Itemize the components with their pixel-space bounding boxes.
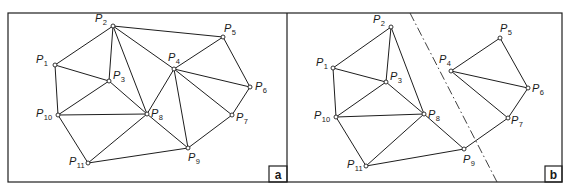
panel-a-tag-label: a (275, 168, 282, 182)
panel-b-tag-label: b (550, 168, 557, 182)
edge-p5-p4 (451, 38, 500, 71)
figure-canvas: P1P2P3P4P5P6P7P8P9P10P11 a P1P2P3P4P5P6P… (0, 0, 576, 193)
edge-p1-p3 (333, 68, 386, 82)
node-p1-marker (331, 66, 335, 70)
panel-b-edges (333, 27, 528, 166)
node-p2-label: P2 (95, 12, 107, 27)
node-p2-label: P2 (373, 13, 385, 28)
edge-p4-p5 (174, 37, 223, 69)
node-p3-marker (107, 79, 111, 83)
panel-a-nodes (53, 24, 252, 165)
node-p4-marker (449, 69, 453, 73)
edge-p4-p9 (174, 69, 188, 148)
node-p10-label: P10 (314, 109, 330, 124)
node-p5-label: P5 (500, 22, 512, 37)
node-p9-label: P9 (188, 151, 200, 166)
panel-a-labels: P1P2P3P4P5P6P7P8P9P10P11 (36, 12, 267, 170)
figure-frame (8, 13, 562, 182)
panel-b-nodes (331, 25, 530, 168)
edge-p6-p5 (500, 38, 528, 88)
edge-p8-p10 (58, 114, 147, 115)
node-p10-marker (334, 115, 338, 119)
node-p5-marker (498, 36, 502, 40)
dash-dot-separator-line (410, 13, 497, 182)
node-p7-marker (506, 116, 510, 120)
node-p3-marker (384, 80, 388, 84)
node-p8-label: P8 (151, 107, 163, 122)
edge-p3-p10 (336, 82, 386, 117)
node-p8-marker (145, 112, 149, 116)
node-p11-marker (86, 161, 90, 165)
node-p8-marker (422, 112, 426, 116)
edge-p2-p5 (113, 26, 223, 37)
edge-p1-p2 (55, 26, 113, 65)
node-p6-label: P6 (532, 82, 544, 97)
edge-p2-p4 (113, 26, 174, 69)
edge-p10-p1 (55, 65, 58, 115)
panel-b-split-triangulation: P1P2P3P4P5P6P7P8P9P10P11 b (314, 13, 562, 182)
edge-p7-p9 (188, 115, 232, 148)
node-p4-marker (172, 67, 176, 71)
node-p2-marker (389, 25, 393, 29)
edge-p10-p8 (336, 114, 424, 117)
edge-p4-p6 (451, 71, 528, 88)
node-p11-label: P11 (69, 155, 85, 170)
node-p7-marker (230, 113, 234, 117)
panel-a-edges (55, 26, 250, 163)
panel-a-tag: a (269, 166, 287, 182)
node-p7-label: P7 (511, 114, 523, 129)
node-p4-label: P4 (439, 53, 451, 68)
node-p5-label: P5 (224, 22, 236, 37)
edge-p4-p7 (451, 71, 508, 118)
edge-p1-p3 (55, 65, 109, 81)
node-p10-label: P10 (36, 107, 52, 122)
node-p3-label: P3 (113, 69, 125, 84)
node-p7-label: P7 (236, 111, 248, 126)
node-p1-label: P1 (316, 56, 328, 71)
edge-p5-p6 (223, 37, 250, 87)
node-p3-label: P3 (390, 70, 402, 85)
node-p9-marker (462, 147, 466, 151)
edge-p3-p10 (58, 81, 109, 115)
edge-p3-p8 (109, 81, 147, 114)
edge-p9-p7 (464, 118, 508, 149)
node-p11-label: P11 (347, 158, 363, 173)
panel-b-cut-line (410, 13, 497, 182)
node-p5-marker (221, 35, 225, 39)
node-p8-label: P8 (428, 108, 440, 123)
edge-p11-p8 (366, 114, 424, 166)
node-p11-marker (364, 164, 368, 168)
node-p9-label: P9 (463, 153, 475, 168)
panel-a-full-triangulation: P1P2P3P4P5P6P7P8P9P10P11 a (36, 12, 287, 182)
edge-p11-p9 (366, 149, 464, 166)
node-p9-marker (186, 146, 190, 150)
node-p2-marker (111, 24, 115, 28)
panel-b-tag: b (545, 166, 562, 182)
edge-p1-p10 (333, 68, 336, 117)
node-p10-marker (56, 113, 60, 117)
node-p4-label: P4 (168, 51, 180, 66)
panel-b-labels: P1P2P3P4P5P6P7P8P9P10P11 (314, 13, 544, 173)
node-p1-label: P1 (36, 53, 48, 68)
edge-p8-p9 (147, 114, 188, 148)
node-p6-label: P6 (255, 80, 267, 95)
edge-p1-p2 (333, 27, 391, 68)
node-p6-marker (526, 86, 530, 90)
outer-frame (8, 13, 562, 182)
node-p1-marker (53, 63, 57, 67)
triangulation-figure: P1P2P3P4P5P6P7P8P9P10P11 a P1P2P3P4P5P6P… (0, 0, 576, 193)
node-p6-marker (248, 85, 252, 89)
